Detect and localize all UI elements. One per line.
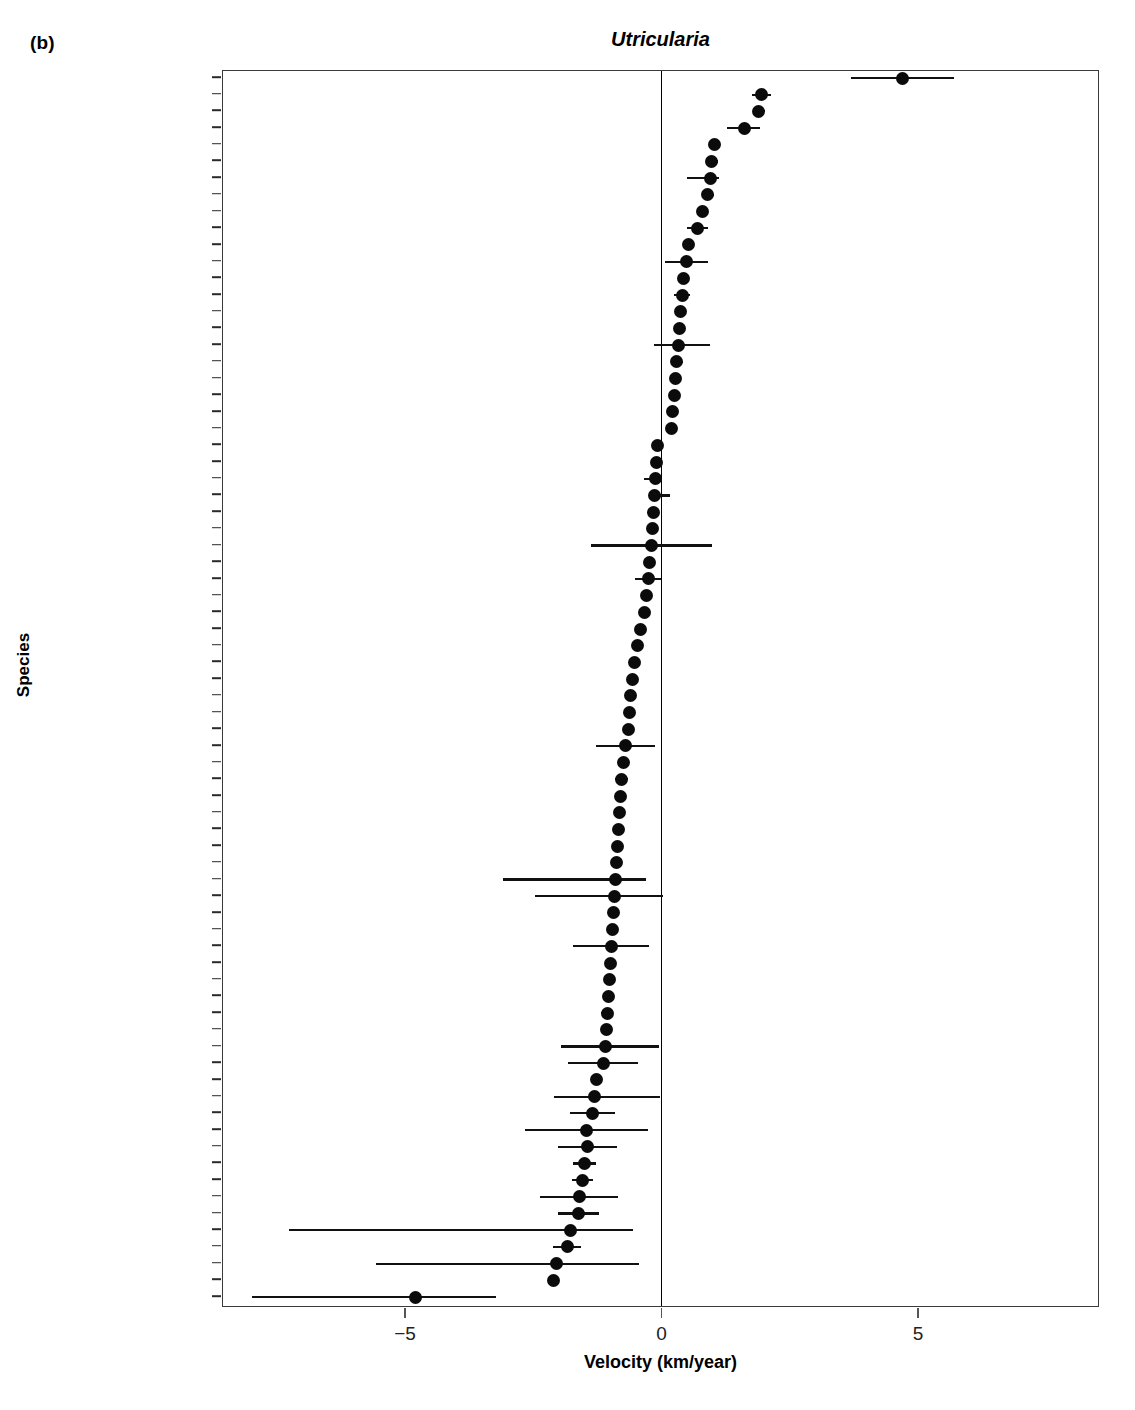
confidence-interval-bar — [252, 1296, 496, 1298]
estimate-point — [705, 155, 718, 168]
y-tick-mark — [212, 444, 221, 446]
estimate-point — [701, 188, 714, 201]
y-tick-mark — [212, 961, 221, 963]
estimate-point — [666, 405, 679, 418]
y-tick-mark — [212, 661, 221, 663]
y-tick-mark — [212, 1162, 221, 1164]
y-tick-mark — [212, 176, 221, 178]
y-tick-mark — [212, 928, 221, 930]
y-tick-mark — [212, 611, 221, 613]
estimate-point — [564, 1224, 577, 1237]
estimate-point — [547, 1274, 560, 1287]
y-tick-mark — [212, 711, 221, 713]
estimate-point — [581, 1140, 594, 1153]
estimate-point — [610, 856, 623, 869]
estimate-point — [572, 1207, 585, 1220]
y-tick-mark — [212, 1028, 221, 1030]
y-tick-mark — [212, 1145, 221, 1147]
y-tick-mark — [212, 93, 221, 95]
y-tick-mark — [212, 1061, 221, 1063]
confidence-interval-bar — [554, 1096, 661, 1098]
estimate-point — [626, 673, 639, 686]
y-tick-mark — [212, 193, 221, 195]
estimate-point — [617, 756, 630, 769]
estimate-point — [601, 1007, 614, 1020]
y-tick-mark — [212, 377, 221, 379]
x-tick-mark — [917, 1308, 919, 1318]
y-tick-mark — [212, 243, 221, 245]
estimate-point — [619, 739, 632, 752]
estimate-point — [650, 456, 663, 469]
estimate-point — [682, 238, 695, 251]
y-tick-mark — [212, 1262, 221, 1264]
estimate-point — [615, 773, 628, 786]
x-tick-label: 5 — [913, 1323, 924, 1345]
estimate-point — [896, 72, 909, 85]
y-tick-mark — [212, 277, 221, 279]
y-tick-mark — [212, 343, 221, 345]
y-tick-mark — [212, 1011, 221, 1013]
estimate-point — [550, 1257, 563, 1270]
y-tick-mark — [212, 393, 221, 395]
estimate-point — [605, 940, 618, 953]
estimate-point — [604, 957, 617, 970]
estimate-point — [607, 906, 620, 919]
y-tick-mark — [212, 1295, 221, 1297]
y-tick-mark — [212, 360, 221, 362]
plot-area: −505 — [222, 70, 1099, 1307]
estimate-point — [646, 522, 659, 535]
y-tick-mark — [212, 494, 221, 496]
y-tick-mark — [212, 694, 221, 696]
estimate-point — [631, 639, 644, 652]
y-tick-mark — [212, 844, 221, 846]
y-tick-mark — [212, 945, 221, 947]
estimate-point — [609, 873, 622, 886]
y-tick-mark — [212, 1279, 221, 1281]
y-tick-mark — [212, 995, 221, 997]
y-tick-mark — [212, 644, 221, 646]
estimate-point — [603, 973, 616, 986]
plot-title: Utricularia — [222, 28, 1099, 51]
estimate-point — [623, 706, 636, 719]
estimate-point — [608, 890, 621, 903]
estimate-point — [573, 1190, 586, 1203]
estimate-point — [580, 1124, 593, 1137]
x-axis-title: Velocity (km/year) — [222, 1352, 1099, 1373]
y-tick-mark — [212, 727, 221, 729]
y-tick-mark — [212, 527, 221, 529]
estimate-point — [561, 1240, 574, 1253]
estimate-point — [576, 1174, 589, 1187]
y-tick-mark — [212, 327, 221, 329]
x-tick-mark — [661, 1308, 663, 1318]
y-tick-mark — [212, 126, 221, 128]
y-tick-mark — [212, 293, 221, 295]
estimate-point — [645, 539, 658, 552]
y-tick-mark — [212, 1045, 221, 1047]
y-tick-mark — [212, 460, 221, 462]
y-tick-mark — [212, 978, 221, 980]
estimate-point — [691, 222, 704, 235]
y-tick-mark — [212, 110, 221, 112]
y-tick-mark — [212, 560, 221, 562]
estimate-point — [676, 289, 689, 302]
estimate-point — [673, 322, 686, 335]
y-tick-mark — [212, 1112, 221, 1114]
estimate-point — [606, 923, 619, 936]
y-tick-mark — [212, 210, 221, 212]
confidence-interval-bar — [376, 1263, 639, 1265]
estimate-point — [600, 1023, 613, 1036]
x-tick-label: 0 — [656, 1323, 667, 1345]
y-tick-mark — [212, 76, 221, 78]
estimate-point — [586, 1107, 599, 1120]
estimate-point — [677, 272, 690, 285]
y-tick-mark — [212, 761, 221, 763]
estimate-point — [634, 623, 647, 636]
estimate-point — [409, 1291, 422, 1304]
zero-reference-line — [661, 71, 663, 1306]
confidence-interval-bar — [535, 895, 662, 897]
estimate-point — [665, 422, 678, 435]
y-tick-mark — [212, 894, 221, 896]
confidence-interval-bar — [289, 1229, 633, 1231]
y-tick-mark — [212, 1228, 221, 1230]
y-tick-mark — [212, 160, 221, 162]
